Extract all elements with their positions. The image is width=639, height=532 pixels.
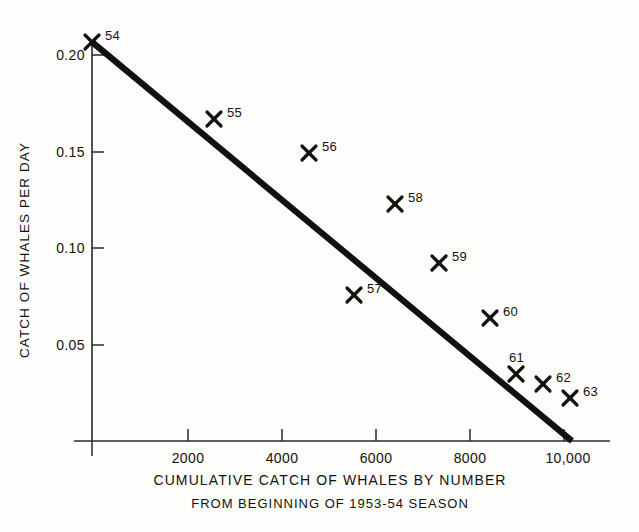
y-tick-label-0.10: 0.10 (56, 240, 85, 256)
x-axis-subtitle: FROM BEGINNING OF 1953-54 SEASON (191, 496, 469, 511)
data-point-label-54: 54 (105, 28, 120, 43)
x-tick-label-10000: 10,000 (545, 450, 590, 466)
chart-canvas: 0.20 0.15 0.10 0.05 CATCH OF WHALES PER … (0, 0, 639, 532)
x-tick-label-8000: 8000 (454, 450, 487, 466)
y-axis-title: CATCH OF WHALES PER DAY (17, 142, 32, 358)
y-tick-label-0.05: 0.05 (56, 337, 85, 353)
whale-catch-scatter-figure: 0.20 0.15 0.10 0.05 CATCH OF WHALES PER … (0, 0, 639, 532)
chart-background (0, 0, 639, 532)
data-point-label-63: 63 (583, 384, 598, 399)
x-tick-label-2000: 2000 (172, 450, 205, 466)
data-point-label-59: 59 (452, 249, 467, 264)
data-point-label-55: 55 (227, 105, 242, 120)
data-point-label-57: 57 (367, 281, 382, 296)
data-point-label-61: 61 (509, 350, 524, 365)
y-tick-label-0.20: 0.20 (56, 47, 85, 63)
x-tick-label-4000: 4000 (266, 450, 299, 466)
data-point-label-58: 58 (408, 190, 423, 205)
x-axis-title: CUMULATIVE CATCH OF WHALES BY NUMBER (153, 472, 506, 488)
data-point-label-56: 56 (322, 139, 337, 154)
data-point-label-60: 60 (503, 304, 518, 319)
x-tick-label-6000: 6000 (360, 450, 393, 466)
y-tick-label-0.15: 0.15 (56, 144, 85, 160)
data-point-label-62: 62 (556, 370, 571, 385)
